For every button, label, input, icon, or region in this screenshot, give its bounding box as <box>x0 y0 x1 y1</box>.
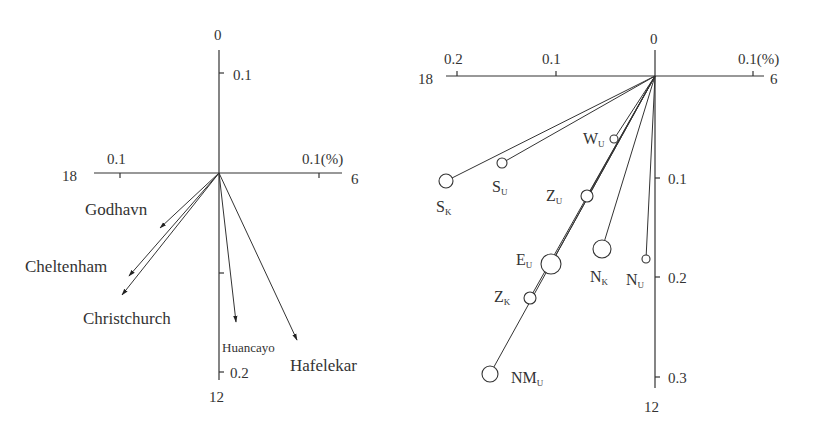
sk-label: SK <box>436 198 452 217</box>
right-axis-bottom-label: 12 <box>644 399 659 415</box>
eu-point <box>541 254 561 274</box>
left-dial-diagram: 0 0.1 18 0.1 0.1(%) 6 0.2 12 Godhavn Che… <box>25 27 359 405</box>
sk-vector <box>446 76 655 181</box>
christchurch-label: Christchurch <box>83 309 171 328</box>
wu-point <box>610 135 618 143</box>
godhavn-label: Godhavn <box>85 200 148 219</box>
right-tick-v3-label: 0.3 <box>668 370 687 386</box>
left-axis-right-label: 6 <box>351 171 359 187</box>
hafelekar-label: Hafelekar <box>290 356 357 375</box>
zu-label: ZU <box>546 187 563 206</box>
wu-label: WU <box>583 130 605 149</box>
left-tick-bottom-label: 0.2 <box>230 365 249 381</box>
left-tick-right-label: 0.1(%) <box>302 151 343 168</box>
right-axis-top-label: 0 <box>650 31 658 47</box>
zk-point <box>524 292 536 304</box>
right-tick-right-label: 0.1(%) <box>738 51 779 68</box>
nk-point <box>593 240 611 258</box>
sk-point <box>439 174 453 188</box>
cheltenham-label: Cheltenham <box>25 257 107 276</box>
left-axis-bottom-label: 12 <box>209 389 224 405</box>
diagram-canvas: 0 0.1 18 0.1 0.1(%) 6 0.2 12 Godhavn Che… <box>0 0 820 434</box>
wu-vector <box>614 76 655 139</box>
zu-point <box>581 190 593 202</box>
nmu-point <box>482 366 498 382</box>
huancayo-vector <box>219 173 236 322</box>
nu-vector <box>646 76 655 259</box>
nmu-vector <box>490 76 655 374</box>
su-label: SU <box>492 178 508 197</box>
right-tick-v2-label: 0.2 <box>668 270 687 286</box>
right-dial-diagram: 0 0.2 0.1 0.1(%) 18 6 0.1 0.2 0.3 12 SK … <box>418 31 779 415</box>
right-tick-02-label: 0.2 <box>444 51 463 67</box>
nk-label: NK <box>590 268 609 287</box>
left-tick-left-label: 0.1 <box>107 151 126 167</box>
left-axis-left-label: 18 <box>62 168 77 184</box>
right-tick-v1-label: 0.1 <box>668 171 687 187</box>
cheltenham-vector <box>129 173 219 276</box>
left-axis-top-label: 0 <box>214 27 222 43</box>
right-tick-01-label: 0.1 <box>542 51 561 67</box>
nmu-label: NMU <box>511 369 544 388</box>
su-point <box>497 158 507 168</box>
eu-label: EU <box>516 251 533 270</box>
right-axis-left-label: 18 <box>418 71 433 87</box>
godhavn-vector <box>160 173 219 228</box>
hafelekar-vector <box>219 173 297 340</box>
left-tick-top-label: 0.1 <box>233 67 252 83</box>
christchurch-vector <box>122 173 219 295</box>
nu-point <box>642 255 650 263</box>
zk-label: ZK <box>494 288 511 307</box>
right-axis-right-label: 6 <box>770 71 778 87</box>
nu-label: NU <box>626 271 645 290</box>
huancayo-label: Huancayo <box>222 340 275 355</box>
